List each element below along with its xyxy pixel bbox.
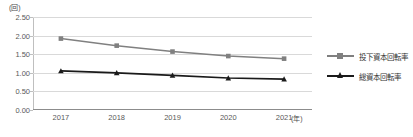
chart-legend: 投下資本回転率総資本回転率 (327, 46, 413, 86)
legend-item[interactable]: 総資本回転率 (327, 66, 413, 86)
y-axis-tick-labels: 0.000.501.001.502.002.50 (0, 17, 30, 110)
y-axis-tick-label: 2.50 (15, 13, 30, 22)
series-layer (33, 17, 312, 110)
y-axis-tick-label: 0.50 (15, 87, 30, 96)
legend-swatch (327, 51, 354, 61)
legend-square-marker-icon (337, 53, 343, 59)
x-axis-tick-label: 2020 (220, 113, 237, 122)
legend-triangle-marker-icon (337, 72, 343, 78)
x-axis-tick-label: 2019 (164, 113, 181, 122)
series-line (61, 39, 284, 59)
legend-item[interactable]: 投下資本回転率 (327, 46, 413, 66)
y-axis-tick (30, 110, 33, 111)
y-axis-tick-label: 1.00 (15, 68, 30, 77)
y-axis-tick-label: 0.00 (15, 106, 30, 115)
x-axis-unit-label: (年) (291, 113, 303, 123)
data-point-marker (282, 56, 287, 61)
data-point-marker (114, 43, 119, 48)
legend-swatch (327, 71, 354, 81)
x-axis-tick-labels: 20172018201920202021 (33, 112, 312, 126)
y-axis-tick-label: 2.00 (15, 31, 30, 40)
y-axis-unit-label: (回) (9, 2, 21, 12)
data-point-marker (170, 49, 175, 54)
legend-label: 総資本回転率 (359, 71, 401, 82)
y-axis-tick-label: 1.50 (15, 50, 30, 59)
x-axis-tick-label: 2018 (108, 113, 125, 122)
line-chart: (回) 0.000.501.001.502.002.50 20172018201… (0, 0, 413, 137)
x-axis-tick-label: 2021 (276, 113, 293, 122)
data-point-marker (59, 36, 64, 41)
x-axis-tick-label: 2017 (53, 113, 70, 122)
legend-label: 投下資本回転率 (359, 51, 408, 62)
data-point-marker (226, 54, 231, 59)
